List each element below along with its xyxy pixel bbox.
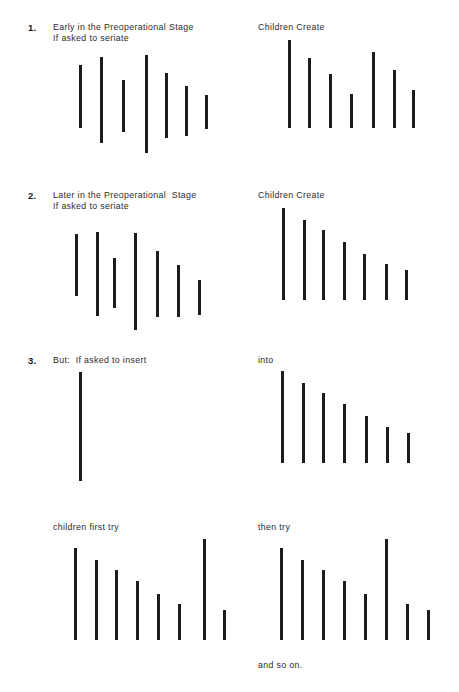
figure-canvas: 1. Early in the Preoperational Stage If … [0,0,459,692]
bar [205,95,208,129]
bottom-left-heading: children first try [53,522,119,534]
bar [74,548,77,640]
bar [322,393,325,463]
bar [96,232,99,316]
bar [282,208,285,300]
bar [302,383,305,463]
section-2-heading-line1: Later in the Preoperational Stage [53,190,196,202]
bar [343,242,346,300]
bar [280,548,283,640]
bar [405,270,408,300]
bar [343,404,346,463]
bar [75,234,78,296]
bar [198,280,201,315]
bar [364,594,367,640]
bar [412,90,415,128]
bar [303,220,306,300]
bar [365,416,368,463]
bar [79,372,82,481]
bar [134,233,137,330]
bar [165,73,168,138]
bar [406,604,409,640]
bar [223,610,226,640]
section-2-right-heading: Children Create [258,190,325,202]
section-1-number: 1. [28,22,37,33]
bar [157,594,160,640]
section-3-heading-line1: But: If asked to insert [53,355,146,367]
bar [122,80,125,132]
bar [281,371,284,463]
bar [329,74,332,128]
bar [385,264,388,300]
bar [288,40,291,128]
section-3-right-heading: into [258,355,274,367]
bar [301,560,304,640]
bar [322,570,325,640]
bar [178,604,181,640]
bar [372,52,375,128]
bar [136,581,139,640]
bar [385,539,388,640]
section-2-heading-line2: If asked to seriate [53,201,129,213]
bar [145,55,148,153]
bar [203,539,206,640]
bar [393,70,396,128]
bar [343,581,346,640]
bar [322,230,325,300]
bar [177,265,180,317]
bar [386,427,389,463]
section-1-heading-line1: Early in the Preoperational Stage [53,22,194,34]
section-1-heading-line2: If asked to seriate [53,33,129,45]
section-1-right-heading: Children Create [258,22,325,34]
bottom-right-heading: then try [258,522,290,534]
bar [79,65,82,128]
bottom-footer-text: and so on. [258,660,303,672]
bar [100,57,103,143]
section-2-number: 2. [28,190,37,201]
bar [156,251,159,317]
bar [115,570,118,640]
bar [308,58,311,128]
bar [350,94,353,128]
bar [185,86,188,136]
section-3-number: 3. [28,355,37,366]
bar [427,610,430,640]
bar [95,560,98,640]
bar [363,254,366,300]
bar [113,258,116,308]
bar [407,433,410,463]
